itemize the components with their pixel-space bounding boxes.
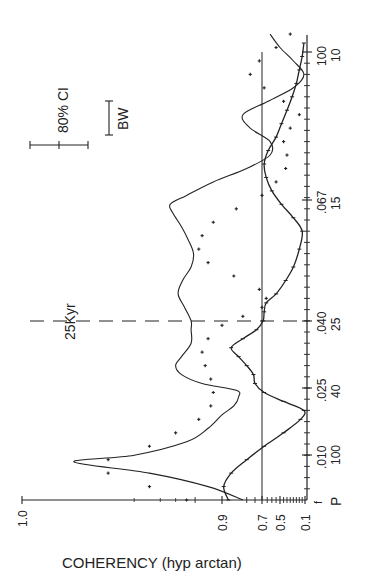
period-tick-label: 25 (329, 317, 343, 331)
coherency-tick-label: 0.1 (299, 514, 313, 531)
frequency-tick-label: .067 (315, 190, 329, 214)
coherency-tick-label: 1.0 (16, 510, 30, 527)
period-tick-label: 100 (329, 445, 343, 465)
period-tick-label: 40 (329, 384, 343, 398)
frequency-tick-label: .025 (315, 378, 329, 402)
coherency-tick-label: 0.7 (256, 514, 270, 531)
period-tick-label: 15 (329, 196, 343, 210)
frequency-tick-label: .040 (315, 311, 329, 335)
series-thin-solid (74, 34, 304, 500)
coherency-tick-label: 0.5 (274, 514, 288, 531)
frequency-tick-label: 100 (315, 46, 329, 66)
frequency-axis-ticks: .010100.02540.04025.0671510010 (302, 46, 343, 489)
bandwidth-bar (105, 101, 113, 135)
p-label: P (328, 497, 344, 506)
25kyr-label: 25Kyr (62, 303, 78, 340)
frequency-tick-label: .010 (315, 445, 329, 469)
ci-error-bar (30, 141, 88, 149)
series-ticked-marks (222, 43, 306, 500)
period-tick-label: 10 (329, 48, 343, 62)
coherency-chart: 1.00.90.70.50.1 .010100.02540.04025.0671… (0, 0, 365, 578)
series-solid-ticked (224, 43, 305, 500)
ci-label: 80% CI (55, 87, 71, 133)
y-axis-title: COHERENCY (hyp arctan) (62, 554, 242, 571)
coherency-tick-label: 0.9 (216, 514, 230, 531)
f-label: f (312, 500, 324, 504)
coherency-axis-ticks: 1.00.90.70.50.1 (16, 496, 313, 531)
bw-label: BW (115, 107, 131, 130)
